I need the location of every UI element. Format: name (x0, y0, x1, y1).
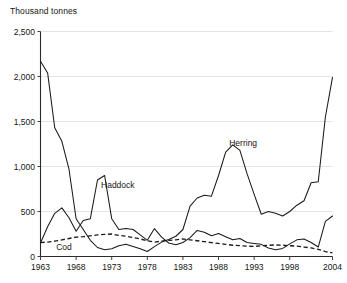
x-tick-label-1963: 1963 (31, 262, 50, 272)
series-label-haddock: Haddock (101, 180, 135, 190)
y-tick-label-1,500: 1,500 (14, 117, 36, 127)
y-axis-tick-labels: 05001,0001,5002,0002,500 (14, 27, 36, 262)
x-tick-label-1978: 1978 (138, 262, 157, 272)
x-tick-label-1998: 1998 (280, 262, 299, 272)
x-tick-label-1983: 1983 (173, 262, 192, 272)
chart-container: Thousand tonnes 05001,0001,5002,0002,500… (0, 0, 347, 283)
y-tick-label-500: 500 (21, 207, 35, 217)
series-line-cod (41, 234, 333, 253)
x-tick-label-1993: 1993 (245, 262, 264, 272)
line-chart-plot: 05001,0001,5002,0002,500 196319681973197… (0, 0, 347, 283)
x-axis-tick-labels: 196319681973197819831988199319982004 (31, 262, 342, 272)
data-series (41, 61, 333, 253)
x-tick-label-2004: 2004 (323, 262, 342, 272)
y-tick-label-2,000: 2,000 (14, 72, 36, 82)
series-label-cod: Cod (56, 242, 72, 252)
x-tick-label-1968: 1968 (67, 262, 86, 272)
series-label-herring: Herring (229, 138, 257, 148)
x-tick-label-1973: 1973 (102, 262, 121, 272)
y-tick-label-1,000: 1,000 (14, 162, 36, 172)
y-tick-label-0: 0 (30, 252, 35, 262)
y-tick-label-2,500: 2,500 (14, 27, 36, 37)
series-line-herring (41, 61, 333, 251)
gridlines (41, 32, 333, 212)
x-tick-label-1988: 1988 (209, 262, 228, 272)
